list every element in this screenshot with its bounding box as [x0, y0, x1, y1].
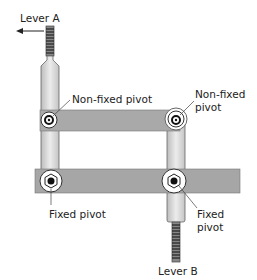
leader-nonfixed-right	[180, 101, 194, 115]
label-lever-a: Lever A	[20, 12, 60, 24]
fixed-pivot-left	[40, 170, 62, 192]
lever-b-spring	[172, 222, 180, 262]
label-fixed-right-1: Fixed	[197, 208, 224, 220]
arrow-left-icon	[16, 28, 44, 34]
lower-bar	[35, 169, 240, 193]
linkage-diagram: Lever A Non-fixed pivot Non-fixed pivot …	[0, 0, 257, 280]
label-nonfixed-right-1: Non-fixed	[195, 88, 245, 100]
label-lever-b: Lever B	[158, 265, 198, 277]
lever-a-spring	[46, 26, 54, 56]
label-fixed-right-2: pivot	[197, 221, 223, 233]
label-nonfixed-left: Non-fixed pivot	[72, 93, 152, 105]
fixed-pivot-right	[162, 169, 186, 193]
label-fixed-left: Fixed pivot	[49, 208, 106, 220]
upper-bar	[40, 110, 180, 131]
label-nonfixed-right-2: pivot	[195, 101, 221, 113]
